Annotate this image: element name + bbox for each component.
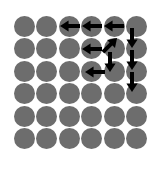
grid-dot-r3-c1 [14, 61, 35, 82]
grid-dot-r6-c3 [59, 128, 80, 149]
grid-dot-r2-c1 [14, 38, 35, 59]
circle-grid [0, 0, 159, 169]
grid-dot-r1-c5 [104, 16, 125, 37]
grid-dot-r5-c2 [36, 106, 57, 127]
grid-dot-r2-c5 [104, 38, 125, 59]
grid-dot-r2-c2 [36, 38, 57, 59]
figure-canvas [0, 0, 159, 169]
grid-dot-r4-c2 [36, 83, 57, 104]
grid-dot-r6-c6 [126, 128, 147, 149]
grid-dot-r3-c6 [126, 61, 147, 82]
grid-dot-r4-c3 [59, 83, 80, 104]
grid-dot-r3-c5 [104, 61, 125, 82]
grid-dot-r1-c4 [81, 16, 102, 37]
grid-dot-r2-c6 [126, 38, 147, 59]
grid-dot-r6-c4 [81, 128, 102, 149]
grid-dot-r5-c4 [81, 106, 102, 127]
grid-dot-r3-c4 [81, 61, 102, 82]
grid-dot-r1-c2 [36, 16, 57, 37]
grid-dot-r1-c3 [59, 16, 80, 37]
grid-dot-r5-c5 [104, 106, 125, 127]
grid-dot-r2-c4 [81, 38, 102, 59]
grid-dot-r1-c1 [14, 16, 35, 37]
grid-dot-r1-c6 [126, 16, 147, 37]
grid-dot-r4-c5 [104, 83, 125, 104]
grid-dot-r6-c1 [14, 128, 35, 149]
grid-dot-r2-c3 [59, 38, 80, 59]
grid-dot-r5-c6 [126, 106, 147, 127]
grid-dot-r6-c2 [36, 128, 57, 149]
grid-dot-r5-c1 [14, 106, 35, 127]
grid-dot-r4-c6 [126, 83, 147, 104]
grid-dot-r3-c2 [36, 61, 57, 82]
grid-dot-r4-c4 [81, 83, 102, 104]
grid-dot-r4-c1 [14, 83, 35, 104]
grid-dot-r3-c3 [59, 61, 80, 82]
grid-dot-r6-c5 [104, 128, 125, 149]
grid-dot-r5-c3 [59, 106, 80, 127]
